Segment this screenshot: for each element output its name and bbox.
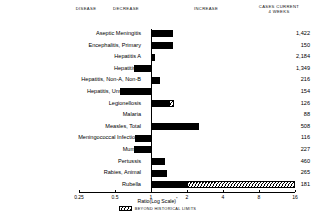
disease-label: Rubella <box>0 179 141 191</box>
legend-label: BEYOND HISTORICAL LIMITS <box>135 206 196 211</box>
cases-value: 154 <box>252 86 310 98</box>
x-axis-title: Ratio(Log Scale)* <box>0 196 315 204</box>
legend: BEYOND HISTORICAL LIMITS <box>0 206 315 211</box>
table-row: Mumps227 <box>0 144 315 156</box>
disease-label: Hepatitis A <box>0 51 141 63</box>
x-axis-line <box>79 192 295 193</box>
cases-value: 116 <box>252 132 310 144</box>
cases-value: 460 <box>252 156 310 168</box>
morbidity-ratio-chart: DISEASE DECREASE INCREASE CASES CURRENT … <box>0 0 315 217</box>
table-row: Pertussis460 <box>0 156 315 168</box>
table-row: Hepatitis, Unspecified154 <box>0 86 315 98</box>
cases-value: 216 <box>252 74 310 86</box>
table-row: Hepatitis B1,349 <box>0 63 315 75</box>
x-axis-title-text: Ratio(Log Scale) <box>137 198 176 204</box>
disease-label: Pertussis <box>0 156 141 168</box>
table-row: Rubella181 <box>0 179 315 191</box>
table-row: Malaria88 <box>0 109 315 121</box>
cases-value: 126 <box>252 98 310 110</box>
disease-label: Meningococcal Infections <box>0 132 141 144</box>
cases-value: 1,349 <box>252 63 310 75</box>
column-header-cases: CASES CURRENT 4 WEEKS <box>248 4 310 14</box>
disease-label: Hepatitis B <box>0 63 141 75</box>
table-row: Hepatitis A2,184 <box>0 51 315 63</box>
disease-label: Malaria <box>0 109 141 121</box>
cases-value: 227 <box>252 144 310 156</box>
cases-value: 88 <box>252 109 310 121</box>
disease-label: Mumps <box>0 144 141 156</box>
table-row: Encephalitis, Primary150 <box>0 40 315 52</box>
table-row: Rabies, Animal265 <box>0 167 315 179</box>
table-row: Aseptic Meningitis1,422 <box>0 28 315 40</box>
table-row: Legionellosis126 <box>0 98 315 110</box>
cases-header-line-2: 4 WEEKS <box>248 9 310 14</box>
disease-label: Encephalitis, Primary <box>0 40 141 52</box>
cases-value: 181 <box>252 179 310 191</box>
cases-value: 508 <box>252 121 310 133</box>
table-row: Hepatitis, Non-A, Non-B216 <box>0 74 315 86</box>
cases-value: 265 <box>252 167 310 179</box>
disease-label: Rabies, Animal <box>0 167 141 179</box>
cases-value: 2,184 <box>252 51 310 63</box>
table-row: Measles, Total508 <box>0 121 315 133</box>
x-axis-title-marker: * <box>176 196 178 201</box>
disease-label: Legionellosis <box>0 98 141 110</box>
disease-label: Aseptic Meningitis <box>0 28 141 40</box>
beyond-historical-limits-swatch-icon <box>119 206 132 211</box>
disease-label: Measles, Total <box>0 121 141 133</box>
cases-value: 150 <box>252 40 310 52</box>
table-row: Meningococcal Infections116 <box>0 132 315 144</box>
disease-label: Hepatitis, Unspecified <box>0 86 141 98</box>
cases-value: 1,422 <box>252 28 310 40</box>
column-header-decrease: DECREASE <box>96 6 156 11</box>
column-header-increase: INCREASE <box>176 6 236 11</box>
disease-label: Hepatitis, Non-A, Non-B <box>0 74 141 86</box>
